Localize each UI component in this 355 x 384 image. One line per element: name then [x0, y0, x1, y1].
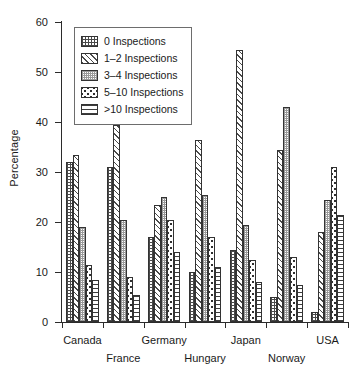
x-axis-group-label: Canada	[63, 334, 102, 346]
y-tick-label: 10	[0, 267, 48, 278]
y-tick	[55, 72, 62, 73]
y-tick	[55, 272, 62, 273]
y-tick-label: 50	[0, 67, 48, 78]
legend: 0 Inspections1–2 Inspections3–4 Inspecti…	[74, 27, 192, 125]
y-tick-label: 30	[0, 167, 48, 178]
legend-label: 3–4 Inspections	[104, 70, 178, 81]
x-axis-line	[61, 322, 349, 323]
x-axis-group-label: USA	[316, 334, 339, 346]
legend-item: >10 Inspections	[81, 101, 183, 118]
bar	[243, 225, 250, 323]
bar	[92, 280, 99, 323]
legend-swatch-grid-icon	[81, 36, 98, 47]
x-tick	[266, 322, 267, 328]
bar-chart: Percentage 0102030405060 CanadaFranceGer…	[0, 0, 355, 384]
bar	[133, 295, 140, 323]
y-tick	[55, 22, 62, 23]
x-tick	[348, 322, 349, 328]
y-tick-label: 0	[0, 317, 48, 328]
y-axis-title: Percentage	[8, 98, 20, 218]
legend-label: >10 Inspections	[104, 104, 178, 115]
bar	[270, 297, 277, 322]
legend-label: 1–2 Inspections	[104, 53, 178, 64]
legend-label: 5–10 Inspections	[104, 87, 183, 98]
x-tick	[103, 322, 104, 328]
y-tick-label: 20	[0, 217, 48, 228]
x-axis-group-label: Norway	[268, 352, 305, 364]
y-tick	[55, 172, 62, 173]
y-tick	[55, 122, 62, 123]
bar	[311, 312, 318, 322]
legend-label: 0 Inspections	[104, 36, 166, 47]
legend-item: 0 Inspections	[81, 33, 183, 50]
x-tick	[62, 322, 63, 328]
x-axis-group-label: Japan	[231, 334, 261, 346]
legend-item: 3–4 Inspections	[81, 67, 183, 84]
y-tick	[55, 322, 62, 323]
y-tick-label: 40	[0, 117, 48, 128]
bar	[73, 155, 80, 323]
x-tick	[185, 322, 186, 328]
y-tick-label: 60	[0, 17, 48, 28]
bar	[337, 215, 344, 323]
legend-swatch-dots-icon	[81, 87, 98, 98]
bar	[256, 282, 263, 322]
bar	[297, 285, 304, 323]
bar	[174, 252, 181, 322]
bar	[161, 197, 168, 322]
bar	[113, 125, 120, 323]
x-axis-group-label: Hungary	[184, 352, 226, 364]
y-tick	[55, 222, 62, 223]
bar	[215, 267, 222, 322]
x-tick	[225, 322, 226, 328]
legend-item: 1–2 Inspections	[81, 50, 183, 67]
legend-swatch-diag-icon	[81, 53, 98, 64]
legend-swatch-hlines-icon	[81, 104, 98, 115]
x-axis-group-label: France	[106, 352, 140, 364]
x-axis-group-label: Germany	[142, 334, 187, 346]
bar	[290, 257, 297, 322]
bar	[202, 195, 209, 323]
x-tick	[144, 322, 145, 328]
bar	[331, 167, 338, 322]
bar	[230, 250, 237, 323]
legend-swatch-stipple-icon	[81, 70, 98, 81]
x-tick	[307, 322, 308, 328]
legend-item: 5–10 Inspections	[81, 84, 183, 101]
